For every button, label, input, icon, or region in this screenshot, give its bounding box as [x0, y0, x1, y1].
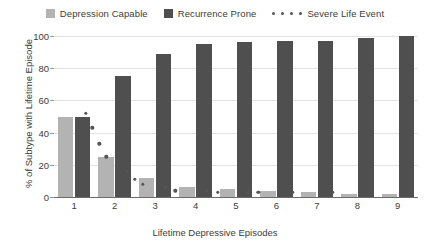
bar-recurrence-prone: [237, 42, 253, 197]
x-axis-tick-label: 3: [152, 200, 157, 211]
bar-recurrence-prone: [115, 76, 131, 197]
plot-area: 020406080100123456789: [54, 36, 418, 197]
y-axis-title: % of Subtype with Lifetime Episode: [23, 24, 34, 204]
legend-label-severe-life-event: Severe Life Event: [307, 8, 384, 19]
y-axis-tick-label: 60: [38, 95, 49, 106]
bar-depression-capable: [301, 192, 317, 197]
x-axis-tick-label: 8: [355, 200, 360, 211]
bar-depression-capable: [179, 187, 195, 197]
bar-depression-capable: [58, 117, 74, 198]
bar-depression-capable: [260, 191, 276, 197]
chart-legend: Depression Capable Recurrence Prone Seve…: [0, 4, 430, 22]
bar-group: [337, 36, 377, 197]
bar-recurrence-prone: [399, 36, 415, 197]
y-axis-tick-mark: [50, 197, 54, 198]
bar-group: [175, 36, 215, 197]
x-axis-line: [50, 197, 418, 198]
legend-item-depression-capable[interactable]: Depression Capable: [46, 8, 148, 19]
x-axis-tick-label: 1: [72, 200, 77, 211]
bar-group: [256, 36, 296, 197]
legend-label-recurrence-prone: Recurrence Prone: [178, 8, 257, 19]
y-axis-tick-label: 20: [38, 159, 49, 170]
bar-recurrence-prone: [156, 54, 172, 197]
legend-item-severe-life-event[interactable]: Severe Life Event: [272, 8, 384, 19]
legend-label-depression-capable: Depression Capable: [60, 8, 148, 19]
chart-root: Depression Capable Recurrence Prone Seve…: [0, 0, 430, 247]
legend-swatch-light-icon: [46, 9, 55, 18]
legend-dot-series-icon: [272, 12, 302, 15]
x-axis-tick-label: 2: [112, 200, 117, 211]
bar-depression-capable: [139, 178, 155, 197]
bar-depression-capable: [220, 189, 236, 197]
bar-recurrence-prone: [196, 44, 212, 197]
x-axis-tick-label: 6: [274, 200, 279, 211]
bar-recurrence-prone: [358, 38, 374, 197]
bar-depression-capable: [98, 157, 114, 197]
bar-recurrence-prone: [318, 41, 334, 197]
bar-group: [135, 36, 175, 197]
x-axis-title: Lifetime Depressive Episodes: [0, 227, 430, 238]
x-axis-tick-label: 7: [314, 200, 319, 211]
y-axis-tick-label: 40: [38, 127, 49, 138]
x-axis-tick-label: 9: [395, 200, 400, 211]
x-axis-tick-label: 5: [233, 200, 238, 211]
legend-item-recurrence-prone[interactable]: Recurrence Prone: [164, 8, 257, 19]
bar-group: [54, 36, 94, 197]
y-axis-tick-label: 80: [38, 63, 49, 74]
bar-depression-capable: [341, 194, 357, 197]
bar-group: [216, 36, 256, 197]
x-axis-tick-label: 4: [193, 200, 198, 211]
bar-recurrence-prone: [277, 41, 293, 197]
bar-group: [94, 36, 134, 197]
legend-swatch-dark-icon: [164, 9, 173, 18]
bar-depression-capable: [382, 194, 398, 197]
bar-recurrence-prone: [75, 117, 91, 198]
bar-group: [378, 36, 418, 197]
y-axis-tick-label: 0: [44, 192, 49, 203]
bar-group: [297, 36, 337, 197]
y-axis-tick-label: 100: [33, 31, 49, 42]
